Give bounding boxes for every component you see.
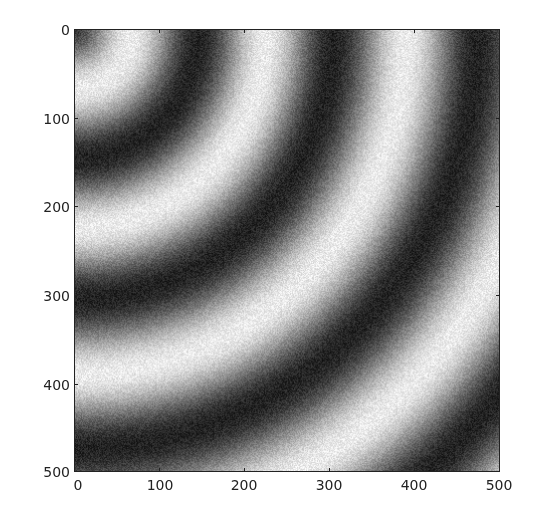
x-tick-top xyxy=(414,29,415,33)
y-tick xyxy=(74,206,78,207)
y-tick-right xyxy=(496,384,500,385)
x-tick-top xyxy=(159,29,160,33)
x-tick-top xyxy=(329,29,330,33)
x-tick xyxy=(329,468,330,472)
y-tick xyxy=(74,295,78,296)
y-tick-label: 300 xyxy=(43,289,70,303)
x-tick-label: 0 xyxy=(74,478,83,492)
x-tick xyxy=(244,468,245,472)
x-tick-top xyxy=(244,29,245,33)
y-tick-label: 400 xyxy=(43,378,70,392)
y-tick-label: 200 xyxy=(43,200,70,214)
y-tick xyxy=(74,29,78,30)
x-tick xyxy=(159,468,160,472)
x-tick-label: 100 xyxy=(147,478,174,492)
heatmap-image xyxy=(75,30,499,471)
x-tick-label: 500 xyxy=(486,478,513,492)
x-tick-label: 400 xyxy=(401,478,428,492)
y-tick-right xyxy=(496,295,500,296)
figure: 0 100 200 300 400 500 0 100 200 300 400 … xyxy=(0,0,538,526)
x-tick-label: 300 xyxy=(316,478,343,492)
y-tick-label: 0 xyxy=(61,23,70,37)
x-tick-label: 200 xyxy=(231,478,258,492)
x-tick xyxy=(414,468,415,472)
y-tick-label: 500 xyxy=(43,465,70,479)
y-tick-right xyxy=(496,118,500,119)
y-tick-right xyxy=(496,206,500,207)
plot-area xyxy=(74,29,500,472)
y-tick xyxy=(74,384,78,385)
y-tick xyxy=(74,118,78,119)
y-tick-label: 100 xyxy=(43,112,70,126)
